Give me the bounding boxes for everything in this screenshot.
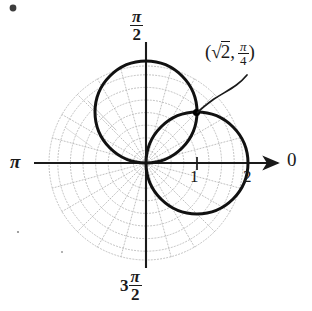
half-pi-denominator: 2 <box>130 25 143 43</box>
paren-close: ) <box>249 41 255 62</box>
three-half-pi-numerator: π <box>129 268 142 285</box>
scan-speck <box>61 251 63 253</box>
three-half-pi-denominator: 2 <box>129 285 142 303</box>
axis-label-half-pi: π 2 <box>130 8 143 43</box>
radial-tick-label-1: 1 <box>190 168 199 185</box>
radicand: 2 <box>221 41 231 61</box>
annotation-leader-line <box>198 75 248 113</box>
axis-label-pi-glyph: π <box>10 151 20 172</box>
scan-speck <box>10 5 17 12</box>
annotation-comma: , <box>230 41 235 62</box>
radial-tick-label-2-text: 2 <box>243 167 252 186</box>
axis-label-three-half-pi: 3π2 <box>120 268 142 303</box>
three-half-pi-lead: 3 <box>120 277 129 294</box>
half-pi-fraction: π 2 <box>130 8 143 43</box>
quarter-pi-fraction: π4 <box>238 40 249 67</box>
axis-label-zero-text: 0 <box>287 149 297 170</box>
radial-tick-label-2: 2 <box>243 168 252 185</box>
three-half-pi-group: 3π2 <box>120 268 142 303</box>
quarter-pi-denominator: 4 <box>238 53 249 67</box>
polar-plot-figure <box>0 0 312 311</box>
scan-speck <box>17 231 19 233</box>
axis-label-zero: 0 <box>287 150 297 169</box>
axis-label-pi: π <box>10 152 20 171</box>
three-half-pi-fraction: π2 <box>129 268 142 303</box>
half-pi-numerator: π <box>130 8 143 25</box>
radial-tick-label-1-text: 1 <box>190 167 199 186</box>
intersection-point-label: (√2,π4) <box>205 40 255 67</box>
quarter-pi-numerator: π <box>238 40 249 53</box>
